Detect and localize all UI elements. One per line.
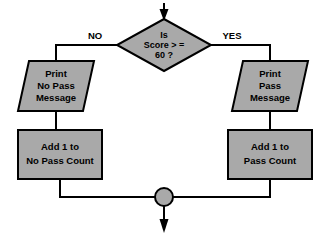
decision-line-3: 60 ?	[155, 50, 173, 60]
no-output-line-3: Message	[36, 92, 76, 103]
decision-line-1: Is	[160, 30, 168, 40]
no-branch-connector	[56, 45, 117, 61]
yes-output-line-1: Print	[259, 68, 281, 79]
yes-output-line-2: Pass	[259, 80, 281, 91]
branch-label-yes: YES	[222, 30, 241, 41]
yes-output-line-3: Message	[250, 92, 290, 103]
decision-diamond[interactable]: Is Score > = 60 ?	[117, 19, 211, 71]
exit-arrow	[160, 206, 169, 233]
yes-process-line-2: Pass Count	[244, 155, 297, 166]
yes-process-line-1: Add 1 to	[251, 141, 289, 152]
branch-label-no: NO	[88, 30, 102, 41]
no-output-line-1: Print	[45, 68, 67, 79]
no-process-rectangle[interactable]: Add 1 to No Pass Count	[18, 130, 102, 179]
yes-branch-connector	[211, 45, 270, 61]
flowchart-svg: Is Score > = 60 ? NO YES Print No Pass M…	[0, 0, 326, 240]
no-process-line-1: Add 1 to	[41, 141, 79, 152]
yes-process-rectangle[interactable]: Add 1 to Pass Count	[228, 130, 312, 179]
no-output-line-2: No Pass	[37, 80, 75, 91]
no-output-parallelogram[interactable]: Print No Pass Message	[18, 61, 94, 111]
yes-output-parallelogram[interactable]: Print Pass Message	[232, 61, 308, 111]
decision-line-2: Score > =	[144, 40, 185, 50]
no-process-line-2: No Pass Count	[26, 155, 94, 166]
flowchart-canvas: Is Score > = 60 ? NO YES Print No Pass M…	[0, 0, 326, 240]
merge-circle-connector[interactable]	[155, 188, 173, 206]
